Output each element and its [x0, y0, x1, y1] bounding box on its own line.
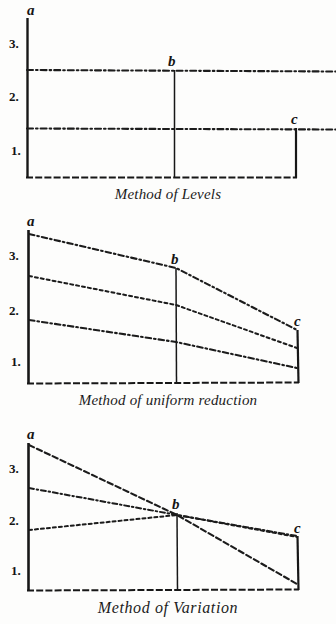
figure-2-caption: Method of uniform reduction: [0, 392, 336, 409]
y-tick-2: 2.: [9, 513, 19, 528]
x-axis-baseline: [27, 383, 299, 384]
reduction-line-upper: [29, 234, 297, 330]
y-tick-2: 2.: [9, 303, 19, 318]
x-axis-baseline: [27, 590, 299, 591]
y-tick-1: 1.: [11, 354, 21, 369]
figure-2-plot: 3. 2. 1. a b c: [0, 212, 336, 390]
point-label-b: b: [172, 496, 180, 512]
reduction-line-lower: [29, 320, 297, 368]
reduction-line-middle: [29, 276, 297, 348]
point-label-b: b: [168, 53, 176, 69]
point-label-c: c: [294, 520, 301, 536]
figure-method-of-uniform-reduction: 3. 2. 1. a b c Method of uniform reducti…: [0, 212, 336, 417]
right-border-c: [298, 536, 299, 590]
variation-line-ascending: [29, 515, 297, 537]
middle-vertical-b: [176, 268, 177, 383]
point-label-a: a: [27, 426, 35, 442]
figure-3-plot: 3. 2. 1. a b c: [0, 425, 336, 597]
point-label-c: c: [291, 111, 298, 127]
level-line-upper: [27, 70, 336, 72]
level-line-lower: [27, 129, 336, 130]
figure-plate: 3. 2. 1. a b c Method of Levels 3.: [0, 0, 336, 624]
figure-1-caption: Method of Levels: [0, 186, 336, 203]
figure-method-of-variation: 3. 2. 1. a b c Method of Variation: [0, 425, 336, 624]
y-tick-1: 1.: [11, 143, 21, 158]
point-label-a: a: [27, 2, 35, 18]
y-tick-2: 2.: [9, 89, 19, 104]
y-tick-3: 3.: [9, 36, 19, 51]
figure-3-caption: Method of Variation: [0, 599, 336, 617]
middle-vertical-b: [177, 513, 178, 590]
point-label-b: b: [171, 251, 179, 267]
right-border-c: [298, 330, 299, 383]
figure-method-of-levels: 3. 2. 1. a b c Method of Levels: [0, 0, 336, 205]
y-tick-3: 3.: [9, 461, 19, 476]
y-tick-1: 1.: [11, 563, 21, 578]
variation-line-descending: [29, 445, 297, 584]
point-label-a: a: [27, 213, 35, 229]
y-tick-3: 3.: [9, 248, 19, 263]
point-label-c: c: [294, 313, 301, 329]
figure-1-plot: 3. 2. 1. a b c: [0, 0, 336, 185]
